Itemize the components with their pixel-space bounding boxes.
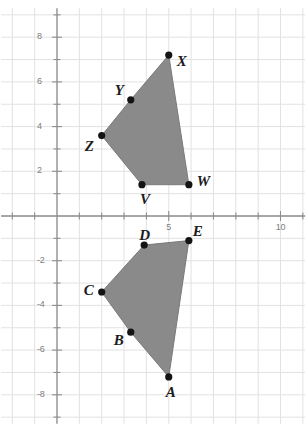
vertex-label-A: A: [166, 384, 176, 401]
vertex-label-X: X: [177, 53, 187, 70]
vertex-label-Y: Y: [115, 82, 124, 99]
vertex-label-V: V: [140, 191, 150, 208]
y-axis-tick-label-2: 2: [37, 165, 42, 175]
upper-polygon-VWXYZ: [102, 55, 189, 185]
vertex-point-C: [98, 288, 105, 295]
vertex-label-E: E: [193, 223, 203, 240]
y-axis-tick-label-6: 6: [37, 76, 42, 86]
vertex-label-D: D: [139, 227, 150, 244]
y-axis-tick-label--8: -8: [37, 389, 45, 399]
vertex-label-W: W: [197, 173, 210, 190]
plot-canvas: [0, 0, 306, 424]
vertex-point-B: [127, 329, 134, 336]
vertex-point-X: [165, 51, 172, 58]
vertex-point-E: [185, 237, 192, 244]
vertex-point-W: [185, 181, 192, 188]
vertex-point-Z: [98, 132, 105, 139]
x-axis-tick-label-5: 5: [166, 222, 171, 232]
x-axis-tick-label-10: 10: [276, 222, 286, 232]
y-axis-tick-label--6: -6: [37, 344, 45, 354]
vertex-point-A: [165, 373, 172, 380]
y-axis-tick-label--4: -4: [37, 299, 45, 309]
y-axis-tick-label-4: 4: [37, 121, 42, 131]
vertex-point-V: [138, 181, 145, 188]
y-axis-tick-label--2: -2: [37, 255, 45, 265]
y-axis-tick-label-8: 8: [37, 31, 42, 41]
vertex-label-Z: Z: [85, 138, 94, 155]
vertex-point-Y: [127, 96, 134, 103]
coordinate-plane-figure: 5108642-2-4-6-8VWXYZABCDE: [0, 0, 306, 424]
vertex-label-C: C: [84, 282, 94, 299]
vertex-label-B: B: [114, 332, 124, 349]
